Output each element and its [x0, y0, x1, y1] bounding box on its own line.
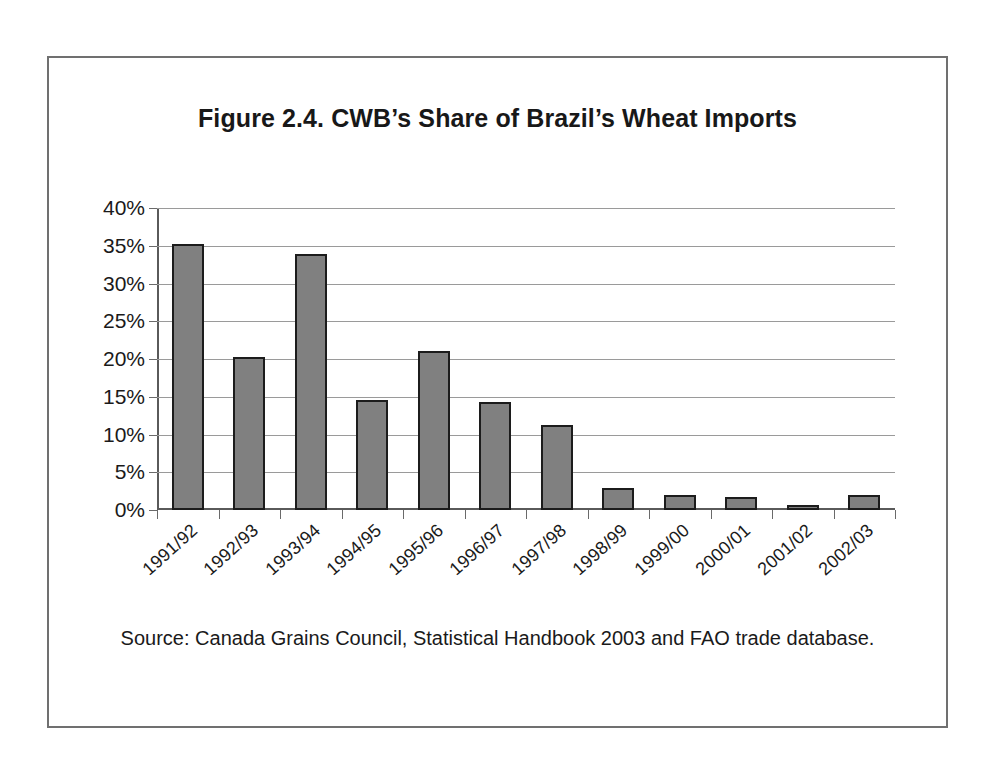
y-axis-tick-label: 20% [103, 347, 145, 371]
x-axis-tick-label: 2001/02 [753, 520, 816, 580]
y-axis-tick-mark [149, 510, 157, 511]
bar-slot: 2002/03 [834, 208, 896, 510]
x-axis-tick-label: 1992/93 [200, 520, 263, 580]
bar[interactable] [664, 495, 696, 510]
x-axis-tick-mark [342, 510, 343, 519]
x-axis-tick-label: 2002/03 [815, 520, 878, 580]
y-axis-tick-mark [149, 359, 157, 360]
bar-slot: 1995/96 [403, 208, 465, 510]
x-axis-tick-label: 2000/01 [692, 520, 755, 580]
bar-slot: 2000/01 [711, 208, 773, 510]
y-axis-tick-label: 5% [115, 460, 145, 484]
figure-frame: Figure 2.4. CWB’s Share of Brazil’s Whea… [47, 56, 948, 728]
y-axis-tick-mark [149, 435, 157, 436]
bar[interactable] [356, 400, 388, 510]
source-note: Source: Canada Grains Council, Statistic… [49, 627, 946, 650]
bar-slot: 1999/00 [649, 208, 711, 510]
x-axis-tick-mark [280, 510, 281, 519]
x-axis-tick-label: 1994/95 [323, 520, 386, 580]
bar-slot: 1992/93 [219, 208, 281, 510]
x-axis-tick-mark [526, 510, 527, 519]
y-axis-tick-label: 15% [103, 385, 145, 409]
x-axis-tick-label: 1997/98 [507, 520, 570, 580]
x-axis-tick-label: 1991/92 [138, 520, 201, 580]
y-axis-tick-mark [149, 321, 157, 322]
x-axis-tick-mark [588, 510, 589, 519]
y-axis-tick-mark [149, 246, 157, 247]
x-axis-tick-label: 1999/00 [630, 520, 693, 580]
x-axis-tick-mark [895, 510, 896, 519]
x-axis-tick-label: 1998/99 [569, 520, 632, 580]
y-axis-tick-mark [149, 472, 157, 473]
x-axis-tick-mark [465, 510, 466, 519]
bar[interactable] [602, 488, 634, 510]
bar-slot: 1997/98 [526, 208, 588, 510]
y-axis-tick-label: 0% [115, 498, 145, 522]
y-axis-tick-label: 30% [103, 272, 145, 296]
x-axis-tick-mark [157, 510, 158, 519]
x-axis-tick-mark [219, 510, 220, 519]
y-axis-tick-label: 40% [103, 196, 145, 220]
bar[interactable] [848, 495, 880, 510]
bar-slot: 1991/92 [157, 208, 219, 510]
x-axis-tick-mark [649, 510, 650, 519]
x-axis-tick-mark [772, 510, 773, 519]
bar-slot: 1998/99 [588, 208, 650, 510]
bar-slot: 1994/95 [342, 208, 404, 510]
chart-plot-area: 0%5%10%15%20%25%30%35%40% 1991/921992/93… [157, 208, 895, 510]
bar[interactable] [295, 254, 327, 510]
x-axis-tick-mark [403, 510, 404, 519]
bar[interactable] [233, 357, 265, 510]
x-axis-tick-mark [834, 510, 835, 519]
bar[interactable] [479, 402, 511, 510]
y-axis-tick-mark [149, 397, 157, 398]
bar-slot: 1996/97 [465, 208, 527, 510]
bar[interactable] [787, 505, 819, 510]
bar[interactable] [541, 425, 573, 510]
bar-slot: 1993/94 [280, 208, 342, 510]
bar[interactable] [725, 497, 757, 510]
bar[interactable] [172, 244, 204, 510]
y-axis-tick-label: 10% [103, 423, 145, 447]
x-axis-tick-label: 1996/97 [446, 520, 509, 580]
x-axis-tick-label: 1993/94 [261, 520, 324, 580]
x-axis-tick-mark [711, 510, 712, 519]
bar[interactable] [418, 351, 450, 510]
y-axis-tick-label: 35% [103, 234, 145, 258]
figure-title: Figure 2.4. CWB’s Share of Brazil’s Whea… [49, 104, 946, 133]
y-axis-tick-label: 25% [103, 309, 145, 333]
bar-slot: 2001/02 [772, 208, 834, 510]
y-axis-tick-mark [149, 284, 157, 285]
x-axis-tick-label: 1995/96 [384, 520, 447, 580]
y-axis-tick-mark [149, 208, 157, 209]
